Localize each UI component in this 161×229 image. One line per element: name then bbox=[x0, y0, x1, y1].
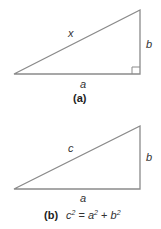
triangle-b: c b a (b) c2 = a2 + b2 bbox=[14, 126, 152, 221]
right-angle-marker bbox=[132, 67, 140, 74]
pythagorean-equation: c2 = a2 + b2 bbox=[66, 209, 121, 221]
hypotenuse-label-c: c bbox=[68, 142, 74, 154]
caption-a: (a) bbox=[73, 92, 87, 104]
base-label-a: a bbox=[80, 192, 86, 204]
caption-b: (b) bbox=[44, 209, 58, 221]
base-label-a: a bbox=[80, 78, 86, 90]
triangle-b-outline bbox=[14, 126, 140, 189]
triangle-a: x b a (a) bbox=[14, 10, 152, 104]
hypotenuse-label-x: x bbox=[67, 27, 74, 39]
side-label-b: b bbox=[146, 38, 152, 50]
triangle-a-outline bbox=[14, 10, 140, 74]
side-label-b: b bbox=[146, 151, 152, 163]
pythagorean-diagram: x b a (a) c b a (b) c2 = a2 + b2 bbox=[0, 0, 161, 229]
